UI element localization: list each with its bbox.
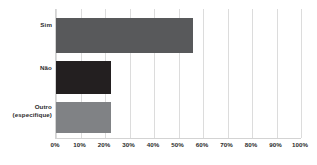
gridline-80 bbox=[252, 9, 253, 138]
category-label-outro-line2: (especifique) bbox=[0, 111, 52, 119]
category-label-outro-line1: Outro bbox=[0, 103, 52, 111]
xtick-label-100: 100% bbox=[292, 141, 308, 148]
category-axis-labels: Sim Não Outro (especifique) bbox=[0, 9, 52, 138]
bar-nao bbox=[56, 61, 111, 94]
gridline-60 bbox=[203, 9, 204, 138]
xtick-label-50: 50% bbox=[171, 141, 184, 148]
bar-sim bbox=[56, 18, 193, 53]
xtick-label-90: 90% bbox=[269, 141, 282, 148]
xtick-label-60: 60% bbox=[196, 141, 209, 148]
category-label-sim-line1: Sim bbox=[0, 21, 52, 29]
category-label-sim: Sim bbox=[0, 21, 52, 29]
category-label-nao-line1: Não bbox=[0, 64, 52, 72]
xtick-label-70: 70% bbox=[220, 141, 233, 148]
xtick-label-20: 20% bbox=[98, 141, 111, 148]
gridline-90 bbox=[277, 9, 278, 138]
gridline-70 bbox=[228, 9, 229, 138]
plot-area bbox=[55, 9, 301, 139]
gridline-100 bbox=[301, 9, 302, 138]
xtick-label-40: 40% bbox=[147, 141, 160, 148]
category-label-nao: Não bbox=[0, 64, 52, 72]
x-axis-tick-labels: 0% 10% 20% 30% 40% 50% 60% 70% 80% 90% 1… bbox=[0, 141, 317, 155]
xtick-label-30: 30% bbox=[122, 141, 135, 148]
bar-outro bbox=[56, 102, 111, 133]
xtick-label-10: 10% bbox=[73, 141, 86, 148]
xtick-label-80: 80% bbox=[245, 141, 258, 148]
bar-chart: Sim Não Outro (especifique) 0% 10% 20% 3… bbox=[0, 0, 317, 165]
xtick-label-0: 0% bbox=[50, 141, 59, 148]
category-label-outro: Outro (especifique) bbox=[0, 103, 52, 118]
